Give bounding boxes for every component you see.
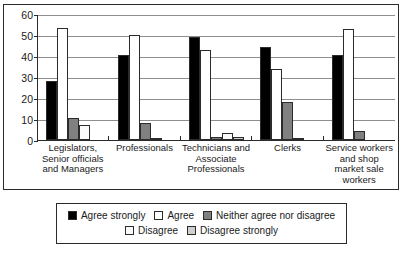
- bar: [282, 102, 293, 140]
- legend-item: Neither agree nor disagree: [203, 208, 335, 223]
- legend-swatch-icon: [154, 211, 163, 220]
- bar: [233, 137, 244, 140]
- legend-swatch-icon: [187, 226, 196, 235]
- legend-box: Agree stronglyAgreeNeither agree nor dis…: [56, 203, 347, 244]
- bar: [332, 55, 343, 140]
- bar: [79, 125, 90, 140]
- legend-item: Disagree: [125, 223, 178, 238]
- bar: [140, 123, 151, 140]
- bar-group: [38, 15, 109, 140]
- bar-group: [252, 15, 323, 140]
- legend-label: Disagree strongly: [200, 223, 278, 238]
- x-axis-category-label: Clerks: [252, 143, 324, 185]
- bar: [222, 133, 233, 140]
- legend-item: Agree strongly: [68, 208, 145, 223]
- x-axis-category-label: Technicians and Associate Professionals: [180, 143, 252, 185]
- legend-label: Agree strongly: [81, 208, 145, 223]
- bar: [57, 28, 68, 140]
- bar-group: [109, 15, 180, 140]
- x-axis-category-label: Service workers and shop market sale wor…: [323, 143, 395, 185]
- chart-frame: 0102030405060 Legislators, Senior offici…: [3, 4, 399, 190]
- legend-row-primary: Agree stronglyAgreeNeither agree nor dis…: [57, 208, 346, 223]
- legend-item: Agree: [154, 208, 194, 223]
- legend-swatch-icon: [203, 211, 212, 220]
- bar: [211, 137, 222, 140]
- bar: [189, 37, 200, 140]
- bar: [293, 138, 304, 140]
- bar: [271, 69, 282, 140]
- legend-swatch-icon: [68, 211, 77, 220]
- legend-label: Agree: [167, 208, 194, 223]
- legend-label: Neither agree nor disagree: [216, 208, 335, 223]
- x-axis-category-label: Professionals: [109, 143, 181, 185]
- bar: [68, 118, 79, 140]
- x-axis-category-label: Legislators, Senior officials and Manage…: [37, 143, 109, 185]
- chart-figure: 0102030405060 Legislators, Senior offici…: [0, 0, 405, 264]
- bar-group: [324, 15, 395, 140]
- y-axis-tick-mark: [34, 141, 38, 142]
- bar: [46, 81, 57, 140]
- bar: [260, 47, 271, 140]
- legend-swatch-icon: [125, 226, 134, 235]
- bar-group: [181, 15, 252, 140]
- bar: [200, 50, 211, 140]
- bar: [151, 138, 162, 140]
- bar: [343, 29, 354, 140]
- x-axis-labels: Legislators, Senior officials and Manage…: [37, 143, 395, 185]
- legend-label: Disagree: [138, 223, 178, 238]
- plot-area: 0102030405060: [37, 15, 395, 141]
- bar: [354, 131, 365, 140]
- bar-groups: [38, 15, 395, 140]
- bar: [118, 55, 129, 140]
- legend-row-secondary: DisagreeDisagree strongly: [57, 223, 346, 238]
- bar: [129, 35, 140, 140]
- legend-item: Disagree strongly: [187, 223, 278, 238]
